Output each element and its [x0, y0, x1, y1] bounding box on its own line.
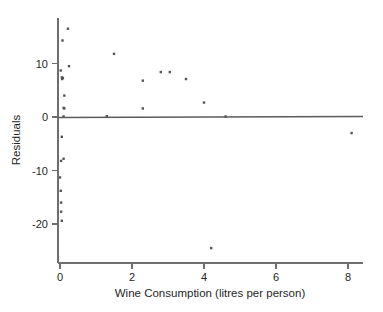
data-point: [60, 211, 62, 213]
residual-scatter-chart: 02468 100-10-20 Wine Consumption (litres…: [0, 0, 383, 312]
y-tick-label: -10: [32, 165, 48, 177]
x-tick-label: 8: [345, 271, 351, 283]
data-point: [203, 101, 205, 103]
data-point: [185, 78, 187, 80]
data-points-group: [59, 28, 353, 250]
data-point: [61, 136, 63, 138]
data-point: [142, 79, 144, 81]
x-tick-label: 6: [273, 271, 279, 283]
y-tick-label: -20: [32, 218, 48, 230]
x-tick-label: 2: [129, 271, 135, 283]
data-point: [210, 247, 212, 249]
data-point: [60, 160, 62, 162]
data-point: [142, 107, 144, 109]
y-axis-title: Residuals: [10, 115, 22, 166]
data-point: [61, 220, 63, 222]
x-tick-label: 0: [57, 271, 63, 283]
y-tick-label: 10: [36, 58, 48, 70]
data-point: [113, 53, 115, 55]
data-point: [60, 190, 62, 192]
data-point: [63, 94, 65, 96]
data-point: [67, 28, 69, 30]
axes-group: [58, 18, 363, 263]
data-point: [63, 107, 65, 109]
data-point: [60, 69, 62, 71]
data-point: [60, 201, 62, 203]
data-point: [62, 115, 64, 117]
plot-canvas: 02468 100-10-20 Wine Consumption (litres…: [0, 0, 383, 312]
data-point: [68, 65, 70, 67]
reference-line: [58, 117, 363, 118]
zero-reference-line: [58, 117, 363, 118]
y-axis-ticks: 100-10-20: [32, 58, 58, 231]
data-point: [160, 71, 162, 73]
x-axis-title: Wine Consumption (litres per person): [115, 287, 306, 299]
data-point: [62, 158, 64, 160]
data-point: [61, 39, 63, 41]
data-point: [59, 176, 61, 178]
data-point: [169, 71, 171, 73]
x-tick-label: 4: [201, 271, 207, 283]
data-point: [106, 115, 108, 117]
data-point: [224, 115, 226, 117]
data-point: [62, 77, 64, 79]
data-point: [350, 132, 352, 134]
y-tick-label: 0: [42, 111, 48, 123]
x-axis-ticks: 02468: [57, 263, 351, 283]
